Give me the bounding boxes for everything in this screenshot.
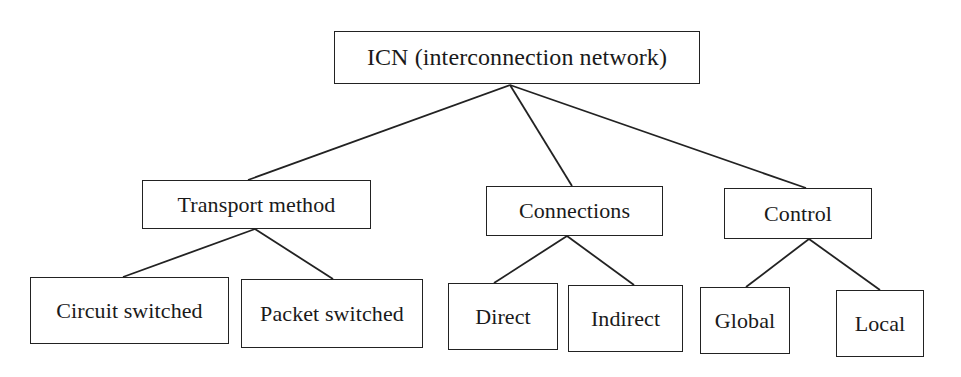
- edge-control-local: [809, 239, 880, 290]
- node-global: Global: [700, 287, 790, 354]
- node-connections-label: Connections: [519, 198, 630, 224]
- edge-icn-transport: [248, 85, 510, 180]
- edge-transport-circuit: [123, 229, 255, 277]
- edge-icn-control: [510, 85, 806, 188]
- node-direct-label: Direct: [475, 304, 531, 330]
- edge-transport-packet: [255, 229, 333, 279]
- node-transport-method: Transport method: [142, 180, 371, 229]
- node-circuit-switched-label: Circuit switched: [56, 298, 202, 324]
- edge-connections-direct: [494, 236, 567, 283]
- node-indirect: Indirect: [568, 285, 683, 352]
- node-control: Control: [724, 188, 872, 239]
- node-control-label: Control: [764, 201, 832, 227]
- edge-icn-connections: [510, 85, 572, 186]
- node-icn: ICN (interconnection network): [334, 31, 700, 84]
- node-packet-switched: Packet switched: [241, 279, 423, 348]
- node-connections: Connections: [486, 186, 663, 236]
- node-transport-method-label: Transport method: [178, 192, 336, 218]
- node-indirect-label: Indirect: [591, 306, 660, 332]
- node-local-label: Local: [855, 311, 906, 337]
- node-direct: Direct: [448, 283, 558, 350]
- node-circuit-switched: Circuit switched: [30, 277, 229, 344]
- node-packet-switched-label: Packet switched: [260, 301, 404, 327]
- node-global-label: Global: [715, 308, 775, 334]
- node-icn-label: ICN (interconnection network): [367, 44, 667, 71]
- edge-connections-indirect: [567, 236, 634, 285]
- node-local: Local: [836, 290, 924, 357]
- edge-control-global: [746, 239, 809, 287]
